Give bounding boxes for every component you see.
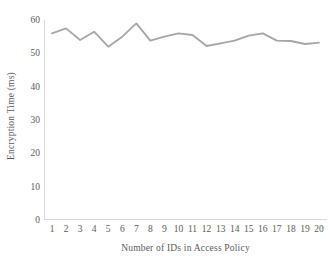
- x-axis-tick-labels: 1234567891011121314151617181920: [44, 223, 327, 237]
- x-axis-tick-label: 4: [92, 223, 97, 235]
- y-axis-tick-label: 40: [18, 82, 44, 92]
- x-axis-tick-label: 12: [202, 223, 212, 235]
- y-axis-tick-label: 60: [18, 15, 44, 25]
- x-axis-tick-label: 3: [78, 223, 83, 235]
- x-axis-tick-label: 1: [50, 223, 55, 235]
- x-axis-tick-label: 13: [216, 223, 226, 235]
- y-axis-title-label: Encryption Time (ms): [6, 72, 16, 160]
- plot-area: [44, 20, 327, 220]
- x-axis-tick-label: 18: [286, 223, 296, 235]
- x-axis-tick-label: 9: [162, 223, 167, 235]
- y-axis-tick-label: 30: [18, 115, 44, 125]
- series-line-encryption-time: [52, 23, 319, 46]
- x-axis-tick-label: 15: [244, 223, 254, 235]
- x-axis-tick-label: 10: [174, 223, 184, 235]
- y-axis-tick-label: 0: [18, 215, 44, 225]
- x-axis-tick-label: 5: [106, 223, 111, 235]
- y-axis-tick-label: 10: [18, 182, 44, 192]
- x-axis-tick-label: 19: [300, 223, 310, 235]
- x-axis-tick-label: 20: [314, 223, 324, 235]
- x-axis-tick-label: 14: [230, 223, 240, 235]
- x-axis-tick-label: 17: [272, 223, 282, 235]
- y-axis-tick-label: 20: [18, 148, 44, 158]
- x-axis-tick-label: 16: [258, 223, 268, 235]
- x-axis-tick-label: 8: [148, 223, 153, 235]
- x-axis-tick-label: 7: [134, 223, 139, 235]
- y-axis-tick-labels: 0102030405060: [18, 0, 44, 272]
- x-axis-tick-label: 11: [188, 223, 197, 235]
- x-axis-tick-label: 2: [64, 223, 69, 235]
- y-axis-tick-label: 50: [18, 48, 44, 58]
- x-axis-tick-label: 6: [120, 223, 125, 235]
- line-chart: Encryption Time (ms) 0102030405060 12345…: [0, 0, 331, 272]
- data-line-svg: [44, 20, 327, 220]
- x-axis-title: Number of IDs in Access Policy: [44, 243, 327, 253]
